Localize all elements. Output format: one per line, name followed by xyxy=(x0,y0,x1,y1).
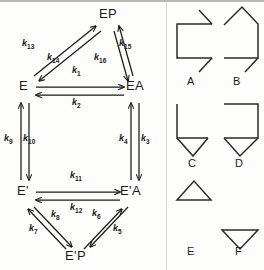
shape-label-E: E xyxy=(187,246,194,257)
shape-label-B: B xyxy=(233,76,240,87)
figure-canvas: EP E EA E' E'A E'P k1 k2 k3 k4 k5 k6 k7 … xyxy=(0,0,264,270)
shape-glyph-C xyxy=(177,104,208,156)
shape-label-A: A xyxy=(187,76,194,87)
shape-legend-glyphs xyxy=(0,0,264,270)
shape-label-C: C xyxy=(188,158,196,169)
shape-glyph-D xyxy=(224,104,258,156)
shape-label-D: D xyxy=(235,158,243,169)
shape-glyph-E xyxy=(177,181,211,200)
shape-label-F: F xyxy=(235,246,242,257)
shape-glyph-A xyxy=(177,10,212,72)
shape-glyph-B xyxy=(224,7,258,72)
